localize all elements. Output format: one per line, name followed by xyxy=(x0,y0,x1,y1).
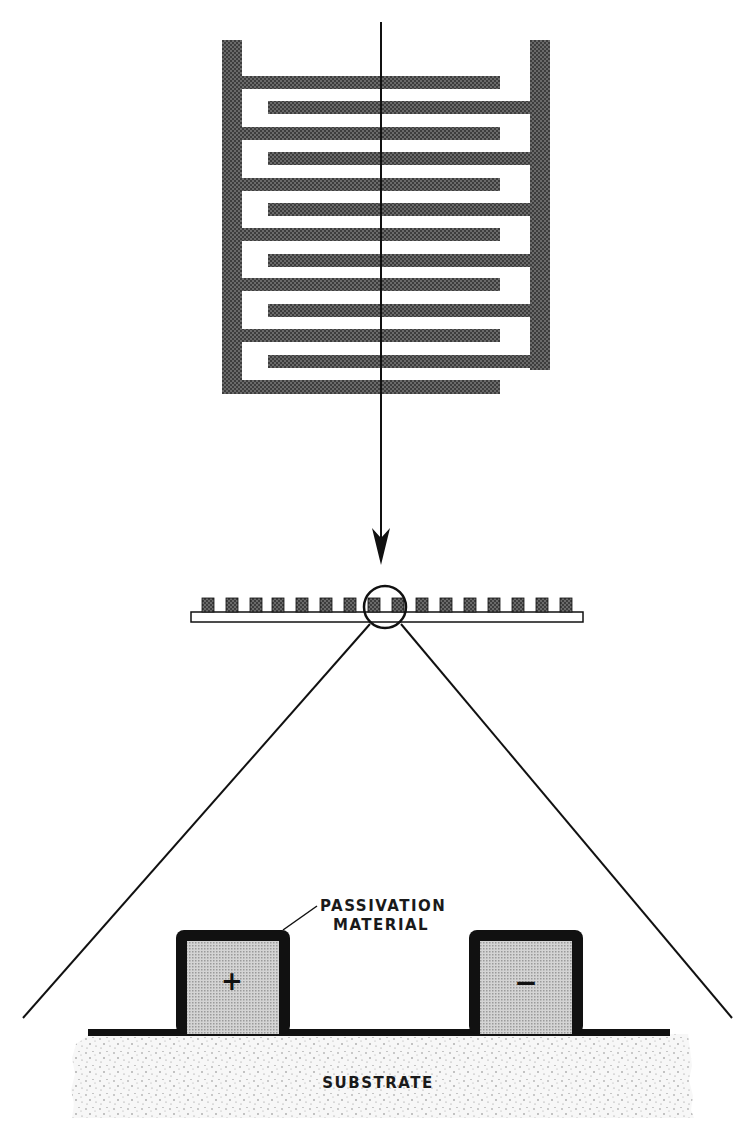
substrate-label: SUBSTRATE xyxy=(322,1074,433,1092)
negative-sign: − xyxy=(514,966,537,999)
interdigitated-electrode-diagram: + − PASSIVATION MATERIAL SUBSTRATE xyxy=(0,0,752,1144)
left-fingers xyxy=(242,76,500,394)
passivation-base-layer xyxy=(88,1029,670,1036)
passivation-leader-line xyxy=(283,906,317,930)
positive-sign: + xyxy=(221,966,243,996)
side-substrate xyxy=(191,612,583,622)
passivation-label-line2: MATERIAL xyxy=(333,916,429,934)
left-bus-bar xyxy=(222,40,242,394)
side-electrodes xyxy=(202,598,572,612)
passivation-label-line1: PASSIVATION xyxy=(320,897,446,915)
right-bus-bar xyxy=(530,40,550,370)
positive-electrode: + xyxy=(176,930,290,1034)
negative-electrode: − xyxy=(469,930,583,1034)
side-view xyxy=(191,586,583,628)
magnified-cross-section: + − PASSIVATION MATERIAL SUBSTRATE xyxy=(71,897,694,1118)
comb-plan-view xyxy=(222,22,550,565)
